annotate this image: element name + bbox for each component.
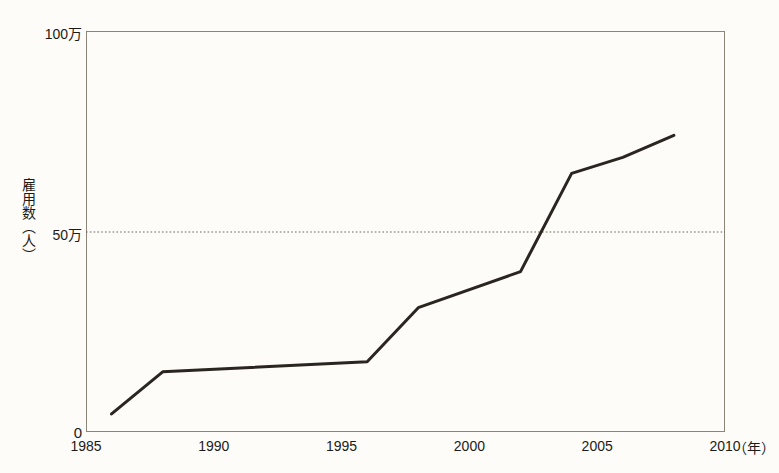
plot-canvas <box>86 31 725 432</box>
y-tick-50man: 50万 <box>0 224 82 240</box>
x-tick-1990: 1990 <box>174 437 254 455</box>
x-tick-1985: 1985 <box>46 437 126 455</box>
y-tick-100man: 100万 <box>0 23 82 39</box>
x-tick-label: 1990 <box>198 438 229 454</box>
x-tick-label: 2000 <box>454 438 485 454</box>
y-tick-label: 50万 <box>52 224 82 244</box>
x-tick-label: 2005 <box>582 438 613 454</box>
y-axis-title: 雇用数（人） <box>14 178 36 262</box>
chart-figure: 雇用数（人） 100万 50万 0 1985 1990 1995 2000 20… <box>0 0 779 473</box>
x-tick-2005: 2005 <box>557 437 637 455</box>
x-tick-2000: 2000 <box>429 437 509 455</box>
x-tick-1995: 1995 <box>302 437 382 455</box>
employment-series-line <box>112 135 674 414</box>
x-tick-label: 1995 <box>326 438 357 454</box>
x-tick-label: 1985 <box>70 438 101 454</box>
x-axis-unit-label: （年） <box>733 437 775 457</box>
y-tick-label: 100万 <box>45 23 82 43</box>
